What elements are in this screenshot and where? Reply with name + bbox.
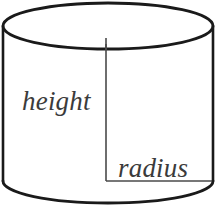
height-label: height xyxy=(22,86,92,116)
cylinder-diagram: height radius xyxy=(0,0,220,210)
radius-label: radius xyxy=(118,153,188,183)
cylinder-drawing: height radius xyxy=(0,0,220,210)
